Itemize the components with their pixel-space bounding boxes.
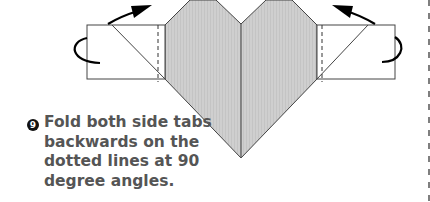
right-side-tab: [317, 25, 395, 82]
left-side-tab: [87, 25, 165, 82]
step-number-badge: 9: [27, 119, 39, 131]
step-instruction: Fold both side tabs backwards on the dot…: [44, 113, 214, 191]
